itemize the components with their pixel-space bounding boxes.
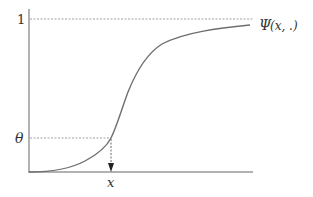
- y-tick-label-theta: θ: [15, 130, 24, 146]
- y-tick-label-one: 1: [17, 12, 25, 27]
- psi-curve: [29, 25, 250, 172]
- arrow-down-icon: [108, 163, 114, 172]
- curve-label-args: (x, .): [270, 19, 298, 33]
- chart-canvas: 1 θ x Ψ (x, .): [0, 0, 313, 197]
- x-tick-label-x: x: [107, 175, 115, 190]
